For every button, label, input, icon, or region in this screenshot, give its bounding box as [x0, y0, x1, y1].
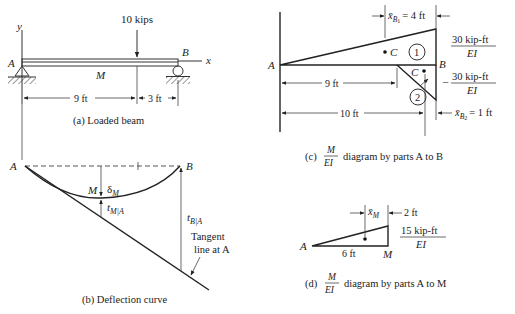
- panel-b-deflection-curve: A B M δM tM|A tB|A Tangent line at A (b)…: [9, 104, 230, 306]
- point-m-label: M: [382, 248, 393, 260]
- dim-2ft-label: 2 ft: [404, 207, 418, 218]
- point-m-label: M: [87, 184, 98, 196]
- part-1-label: 1: [414, 47, 419, 58]
- panel-d-m-ei-diagram-a-to-m: A M 6 ft x̄M 2 ft 15 kip-ft EI (d) M EI …: [299, 205, 447, 295]
- moment-denominator: EI: [415, 239, 426, 250]
- moment-neg-sign: –: [442, 76, 449, 87]
- caption-d-prefix: (d): [305, 278, 318, 290]
- point-a-label: A: [267, 59, 275, 71]
- tangent-label-line1: Tangent: [191, 231, 225, 242]
- load-label: 10 kips: [121, 13, 153, 25]
- point-a-label: A: [9, 160, 17, 172]
- caption-c-prefix: (c): [305, 151, 317, 163]
- moment-neg-denominator: EI: [466, 85, 477, 96]
- dim-9ft-label: 9 ft: [325, 78, 339, 89]
- caption-d-text: diagram by parts A to M: [344, 278, 447, 289]
- part-2-pointer-icon: [420, 79, 428, 86]
- dim-9ft-label: 9 ft: [74, 93, 88, 104]
- xb1-label: x̄B1= 4 ft: [387, 10, 425, 24]
- caption-c-text: diagram by parts A to B: [343, 151, 443, 162]
- dim-6ft-label: 6 ft: [342, 248, 356, 259]
- caption-a: (a) Loaded beam: [73, 115, 144, 127]
- moment-pos-denominator: EI: [466, 48, 477, 59]
- centroid-dot: [363, 237, 367, 241]
- caption-b: (b) Deflection curve: [82, 294, 167, 306]
- point-b-label: B: [439, 58, 446, 70]
- point-b-label: B: [186, 160, 193, 172]
- panel-a-loaded-beam: y x A B M 10 kips 9 ft 3: [7, 13, 211, 127]
- caption-d-num: M: [327, 272, 337, 282]
- dim-10ft-label: 10 ft: [340, 108, 359, 119]
- beam-deflection-figure: y x A B M 10 kips 9 ft 3: [0, 0, 515, 314]
- y-axis-label: y: [16, 20, 22, 32]
- triangle-part-1: [280, 29, 436, 65]
- dim-3ft-label: 3 ft: [148, 93, 162, 104]
- delta-m-label: δM: [107, 183, 120, 198]
- moment-numerator: 15 kip-ft: [401, 225, 438, 236]
- xb2-label: x̄B2= 1 ft: [454, 107, 492, 121]
- x-axis-label: x: [205, 54, 211, 66]
- centroid-1-dot: [383, 50, 387, 54]
- caption-d-den: EI: [324, 285, 335, 295]
- moment-pos-numerator: 30 kip-ft: [452, 34, 489, 45]
- centroid-2-dot: [422, 69, 426, 73]
- point-a-label: A: [299, 240, 307, 252]
- caption-c-num: M: [326, 145, 336, 155]
- point-a-label: A: [7, 57, 15, 69]
- panel-c-m-ei-diagram-a-to-b: A B C 1 C 2 x̄B1= 4 ft 30 kip-ft EI – 30…: [267, 5, 496, 168]
- moment-neg-numerator: 30 kip-ft: [452, 71, 489, 82]
- caption-c-den: EI: [323, 158, 334, 168]
- triangle-a-to-m: [312, 226, 388, 246]
- point-b-label: B: [182, 46, 189, 58]
- t-ba-label: tB|A: [187, 211, 202, 226]
- point-m-label: M: [95, 69, 106, 81]
- centroid-2-label: C: [411, 66, 419, 78]
- xm-label: x̄M: [367, 206, 380, 220]
- tangent-label-line2: line at A: [194, 244, 230, 255]
- centroid-1-label: C: [390, 46, 398, 58]
- tangent-pointer-arrow-icon: [191, 257, 200, 275]
- part-2-label: 2: [415, 92, 420, 103]
- t-ma-label: tM|A: [107, 201, 124, 216]
